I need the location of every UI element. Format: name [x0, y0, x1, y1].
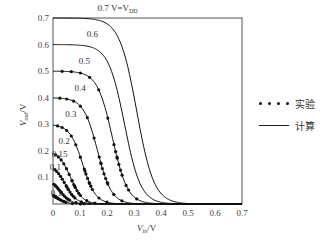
experimental-point [121, 174, 124, 177]
experimental-point [117, 163, 120, 166]
experimental-point [70, 134, 73, 137]
experimental-point [79, 105, 82, 108]
x-tick-label: 0.3 [128, 208, 140, 218]
curve-label: 0.1 [50, 162, 61, 172]
experimental-point [73, 196, 76, 199]
experimental-point [119, 169, 122, 172]
curve-label: 0.1 [51, 188, 62, 198]
experimental-point [127, 188, 130, 191]
x-axis-label: Vin/V [137, 223, 157, 234]
legend-calculated-label: 计算 [295, 118, 315, 133]
experimental-point [64, 201, 67, 204]
curve-labels: 0.7 V=VDD0.60.50.40.30.20.150.10.1 [50, 3, 139, 198]
experimental-point [62, 162, 65, 165]
curve-label: 0.5 [79, 56, 91, 66]
solid-line-icon [259, 125, 289, 126]
experimental-point [79, 71, 82, 74]
curve-label: 0.15 [52, 149, 68, 159]
x-tick-label: 0.5 [182, 208, 194, 218]
experimental-point [65, 185, 68, 188]
x-tick-label: 0.4 [155, 208, 167, 218]
calculated-curve [53, 98, 242, 204]
experimental-point [88, 202, 91, 205]
experimental-point [85, 199, 88, 202]
x-tick-label: 0.1 [74, 208, 85, 218]
x-tick-label: 0.2 [101, 208, 112, 218]
calculated-curve [53, 18, 242, 204]
experimental-point [83, 168, 86, 171]
y-tick-label: 0.6 [38, 40, 50, 50]
experimental-point [61, 70, 64, 73]
curve-label: 0.7 V=VDD [98, 3, 139, 14]
experimental-point [104, 177, 107, 180]
experimental-point [120, 199, 123, 202]
experimental-point [97, 196, 100, 199]
experimental-point [112, 143, 115, 146]
experimental-point [56, 124, 59, 127]
experimental-point [72, 100, 75, 103]
experimental-point [86, 177, 89, 180]
curve-label: 0.2 [58, 136, 69, 146]
x-tick-label: 0 [51, 208, 56, 218]
y-tick-label: 0.3 [38, 119, 50, 129]
plot-frame [53, 18, 242, 204]
experimental-point [88, 76, 91, 79]
experimental-point [79, 156, 82, 159]
experimental-point [105, 201, 108, 204]
experimental-point [74, 186, 77, 189]
legend-experimental: 实验 [259, 96, 315, 111]
experimental-point [65, 129, 68, 132]
y-tick-label: 0.7 [38, 13, 50, 23]
experimental-point [71, 202, 74, 205]
experimental-point [116, 157, 119, 160]
y-tick-label: 0.1 [38, 172, 49, 182]
calculated-curve [53, 168, 242, 204]
experimental-point [65, 167, 68, 170]
experimental-point [61, 126, 64, 129]
curve-label: 0.3 [65, 109, 77, 119]
experimental-point [61, 178, 64, 181]
dotted-marker-icon [259, 102, 289, 105]
experimental-point [71, 179, 74, 182]
experimental-point [135, 197, 138, 200]
experimental-point [65, 97, 68, 100]
y-axis-label: Vout/V [18, 103, 29, 126]
x-tick-label: 0.7 [236, 208, 248, 218]
experimental-point [89, 185, 92, 188]
legend-calculated: 计算 [259, 118, 315, 133]
calculated-curve [53, 45, 242, 204]
y-tick-label: 0.4 [38, 93, 50, 103]
experimental-point [99, 161, 102, 164]
experimental-point [58, 97, 61, 100]
experimental-point [102, 172, 105, 175]
experimental-point [93, 137, 96, 140]
experimental-point [84, 172, 87, 175]
experimental-point [101, 167, 104, 170]
experimental-point [112, 193, 115, 196]
experimental-point [106, 181, 109, 184]
experimental-point [72, 183, 75, 186]
experimental-point [68, 173, 71, 176]
curve-label: 0.6 [87, 29, 99, 39]
experimental-point [114, 150, 117, 153]
experimental-point [88, 181, 91, 184]
x-tick-label: 0.6 [209, 208, 221, 218]
calculated-curves [53, 18, 242, 204]
experimental-point [79, 194, 82, 197]
y-tick-label: 0.5 [38, 66, 50, 76]
experimental-point [98, 155, 101, 158]
experimental-point [97, 88, 100, 91]
experimental-point [74, 143, 77, 146]
experimental-point [68, 199, 71, 202]
experimental-point [82, 202, 85, 205]
experimental-point [74, 201, 77, 204]
experimental-point [57, 172, 60, 175]
experimental-point [70, 70, 73, 73]
experimental-point [91, 188, 94, 191]
experimental-point [86, 116, 89, 119]
experimental-point [106, 117, 109, 120]
experimental-point [59, 175, 62, 178]
y-tick-label: 0.2 [38, 146, 49, 156]
legend-experimental-label: 实验 [295, 96, 315, 111]
experimental-point [93, 202, 96, 205]
